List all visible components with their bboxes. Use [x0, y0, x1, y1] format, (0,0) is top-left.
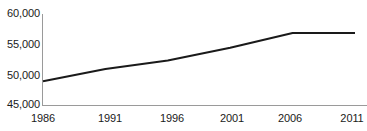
x-axis-tick-label-1991: 1991 — [90, 113, 130, 124]
x-axis-tick-label-2006: 2006 — [270, 113, 310, 124]
y-axis-tick-label-55000: 55,000 — [0, 39, 40, 50]
y-axis-tick-label-50000: 50,000 — [0, 70, 40, 81]
y-axis-tick-label-60000: 60,000 — [0, 8, 40, 19]
line-chart: 60,000 55,000 50,000 45,000 1986 1991 19… — [0, 0, 367, 131]
y-axis-tick-label-45000: 45,000 — [0, 99, 40, 110]
axes-group — [42, 14, 367, 106]
x-axis-tick-label-1986: 1986 — [23, 113, 63, 124]
data-line-series-0 — [43, 33, 355, 81]
x-axis-tick-label-2001: 2001 — [212, 113, 252, 124]
x-axis-tick-label-2011: 2011 — [332, 113, 367, 124]
data-series-group — [43, 33, 355, 81]
x-axis-tick-label-1996: 1996 — [152, 113, 192, 124]
